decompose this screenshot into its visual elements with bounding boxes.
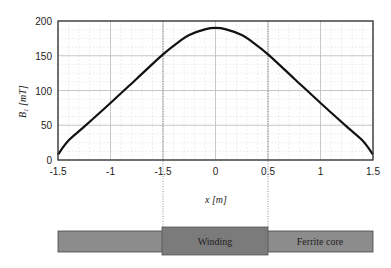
y-axis-label: B1 [mT] bbox=[17, 85, 30, 118]
svg-text:0: 0 bbox=[213, 166, 219, 177]
major-grid bbox=[58, 21, 373, 160]
x-axis-label: x [m] bbox=[204, 194, 227, 205]
svg-text:0.5: 0.5 bbox=[261, 166, 275, 177]
svg-text:50: 50 bbox=[41, 120, 53, 131]
svg-text:-1.5: -1.5 bbox=[49, 166, 67, 177]
svg-text:150: 150 bbox=[35, 51, 52, 62]
ferrite-core-label: Ferrite core bbox=[297, 236, 344, 247]
x-axis-ticks: -1.5-1-1.500.511.5 bbox=[49, 166, 380, 177]
svg-text:100: 100 bbox=[35, 86, 52, 97]
svg-text:0: 0 bbox=[46, 155, 52, 166]
svg-text:1.5: 1.5 bbox=[366, 166, 380, 177]
svg-text:-1: -1 bbox=[106, 166, 115, 177]
winding-label: Winding bbox=[198, 236, 233, 247]
y-axis-ticks: 050100150200 bbox=[35, 16, 52, 166]
svg-text:-1.5: -1.5 bbox=[154, 166, 172, 177]
field-profile-chart: 050100150200 -1.5-1-1.500.511.5 B1 [mT] … bbox=[0, 0, 391, 268]
svg-text:200: 200 bbox=[35, 16, 52, 27]
svg-text:1: 1 bbox=[318, 166, 324, 177]
